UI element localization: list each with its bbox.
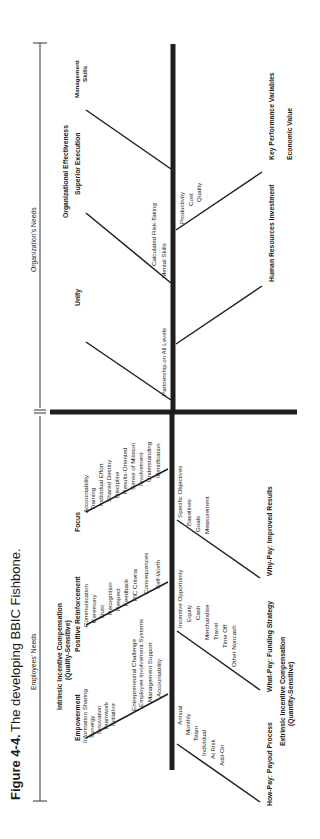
key-performance-variables: Key Performance Variables [268, 72, 276, 160]
hr-investment: Human Resources Investment [268, 184, 275, 282]
rib-unity [86, 342, 171, 400]
rib-superior-execution [86, 213, 171, 283]
svg-text:Information Sharing: Information Sharing [81, 688, 88, 743]
svg-text:Respect: Respect [114, 588, 121, 611]
unity-title: Unity [74, 289, 82, 306]
partnership-on-all-levels: Partnership on All Levels [160, 328, 167, 396]
svg-text:Accountability: Accountability [82, 474, 89, 513]
svg-text:Shared Destiny: Shared Destiny [105, 459, 112, 502]
how-pay-title: How-Pay: Payout Process [266, 722, 274, 806]
svg-text:Innovation: Innovation [95, 705, 102, 734]
svg-text:Accountability: Accountability [155, 658, 162, 697]
svg-text:Goals: Goals [194, 516, 201, 532]
svg-text:Travel: Travel [212, 623, 219, 640]
mental-skills: Mental Skills [160, 243, 167, 278]
focus-items: Accountability Training Individual Effor… [82, 441, 161, 513]
fishbone-diagram: Figure 4-4. The developing BBIC Fishbone… [0, 0, 320, 839]
org-effectiveness-header: Organizational Effectiveness [62, 125, 70, 218]
svg-text:Understanding: Understanding [145, 441, 152, 482]
svg-text:Ceremony: Ceremony [90, 594, 97, 623]
svg-text:Sense of Mission: Sense of Mission [129, 442, 136, 490]
rib-why-pay [177, 520, 260, 578]
svg-text:Add-On: Add-On [218, 744, 225, 766]
svg-text:Time Off: Time Off [221, 624, 228, 648]
productivity: Productivity [178, 191, 185, 224]
svg-text:Team: Team [192, 726, 199, 741]
rib-hr-investment [176, 286, 262, 344]
svg-text:Annual: Annual [176, 706, 183, 725]
svg-text:Trust: Trust [98, 605, 105, 619]
extrinsic-header-1: Extrinsic Incentive Compensation [279, 637, 287, 746]
svg-text:Employee Involvement Systems: Employee Involvement Systems [137, 619, 144, 707]
economic-value-header: Economic Value [286, 108, 293, 160]
svg-text:Cash: Cash [194, 605, 201, 620]
management-skills-title-1: Management [73, 60, 80, 98]
how-pay-items: Annual Monthly Team Individual At Risk A… [176, 706, 225, 766]
management-skills-title-2: Skills [81, 65, 88, 82]
svg-text:Involvement: Involvement [137, 452, 144, 486]
organizations-needs-label: Organization's Needs [30, 207, 38, 272]
svg-text:Teamwork: Teamwork [102, 701, 109, 730]
svg-text:Identification: Identification [154, 443, 161, 478]
figure-title: The developing BBIC Fishbone. [8, 548, 23, 732]
svg-text:Results-Oriented: Results-Oriented [121, 447, 128, 494]
svg-text:Individual: Individual [200, 730, 207, 756]
figure-label: Figure 4-4. [8, 734, 23, 800]
svg-text:Merchandise: Merchandise [203, 604, 210, 640]
svg-text:Training: Training [89, 487, 96, 510]
empowerment-items: Information Sharing Synergy Innovation T… [81, 619, 162, 743]
superior-execution-title: Superior Execution [74, 133, 82, 195]
svg-text:Entrepreneurial Challenge: Entrepreneurial Challenge [130, 639, 137, 711]
focus-title: Focus [74, 512, 81, 532]
svg-text:Management Support: Management Support [146, 642, 153, 702]
svg-text:At Risk: At Risk [209, 738, 216, 759]
svg-text:Monthly: Monthly [184, 712, 191, 735]
extrinsic-header-2: (Quantity-Sensitive) [287, 662, 295, 726]
svg-text:Individual Effort: Individual Effort [97, 463, 104, 506]
svg-text:Consequences: Consequences [142, 553, 149, 594]
svg-text:Initiative: Initiative [109, 703, 116, 726]
positive-reinforcement-title: Positive Reinforcement [74, 576, 81, 652]
cost: Cost [187, 193, 194, 206]
svg-text:Feedback: Feedback [122, 578, 129, 606]
intrinsic-header-2: (Quality-Sensitive) [64, 620, 72, 680]
why-pay-title: Why-Pay: Improved Results [266, 486, 274, 576]
intrinsic-header-1: Intrinsic Incentive Compensation [56, 603, 64, 710]
svg-text:Specific Objectives: Specific Objectives [176, 466, 183, 518]
svg-text:Equity: Equity [185, 604, 192, 622]
svg-text:Communication: Communication [82, 583, 89, 627]
svg-text:PIC Criteria: PIC Criteria [131, 568, 138, 601]
svg-text:Baselines: Baselines [185, 499, 192, 526]
svg-text:Self-Worth: Self-Worth [154, 559, 161, 589]
rib-management-skills [86, 110, 171, 169]
employees-needs-label: Employees' Needs [30, 633, 38, 690]
what-pay-title: What-Pay: Funding Strategy [266, 601, 274, 692]
svg-text:Measurement: Measurement [203, 496, 210, 534]
quality: Quality [195, 182, 202, 202]
calculated-risk-taking: Calculated Risk-Taking [150, 203, 157, 266]
svg-text:Recognition: Recognition [106, 582, 113, 615]
svg-text:Discipline: Discipline [113, 471, 120, 498]
svg-text:Other Noncash: Other Noncash [230, 625, 237, 667]
positive-reinforcement-items: Communication Ceremony Trust Recognition… [82, 553, 161, 627]
svg-text:Incentive Opportunity: Incentive Opportunity [176, 569, 183, 628]
svg-text:Synergy: Synergy [88, 714, 95, 738]
figure-caption: Figure 4-4. The developing BBIC Fishbone… [8, 548, 23, 800]
